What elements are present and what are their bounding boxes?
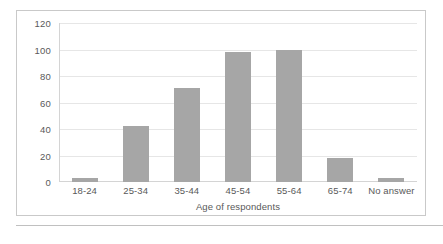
x-axis-tick-label: No answer	[366, 185, 417, 196]
bar[interactable]	[378, 178, 404, 182]
y-axis-tick-label: 100	[35, 44, 51, 55]
x-axis-tick-label: 18-24	[59, 185, 110, 196]
bar[interactable]	[123, 126, 149, 182]
x-axis-tick-label: 25-34	[110, 185, 161, 196]
bar-slot	[110, 23, 161, 182]
y-axis-tick-label: 60	[40, 97, 51, 108]
bar[interactable]	[327, 158, 353, 182]
y-axis-tick-label: 0	[46, 177, 51, 188]
bar[interactable]	[276, 50, 302, 183]
chart-plot-wrapper: 020406080100120 18-2425-3435-4445-5455-6…	[17, 11, 425, 215]
footer-divider	[16, 225, 443, 226]
bar-slot	[212, 23, 263, 182]
bar[interactable]	[72, 178, 98, 182]
plot-area	[59, 23, 417, 182]
x-axis-tick-label: 45-54	[212, 185, 263, 196]
bar-slot	[59, 23, 110, 182]
x-axis-title: Age of respondents	[59, 201, 417, 212]
x-axis-tick-label: 35-44	[161, 185, 212, 196]
bar-slot	[264, 23, 315, 182]
y-axis-tick-label: 120	[35, 18, 51, 29]
y-axis-tick-label: 20	[40, 150, 51, 161]
y-axis: 020406080100120	[17, 23, 55, 182]
bar-series	[59, 23, 417, 182]
bar-slot	[366, 23, 417, 182]
bar-slot	[315, 23, 366, 182]
x-axis-tick-label: 65-74	[315, 185, 366, 196]
chart-frame: 020406080100120 18-2425-3435-4445-5455-6…	[16, 10, 426, 216]
x-axis-tick-label: 55-64	[264, 185, 315, 196]
bar-slot	[161, 23, 212, 182]
bar[interactable]	[174, 88, 200, 182]
x-axis: 18-2425-3435-4445-5455-6465-74No answer	[59, 185, 417, 196]
bar[interactable]	[225, 52, 251, 182]
y-axis-tick-label: 40	[40, 124, 51, 135]
y-axis-tick-label: 80	[40, 71, 51, 82]
